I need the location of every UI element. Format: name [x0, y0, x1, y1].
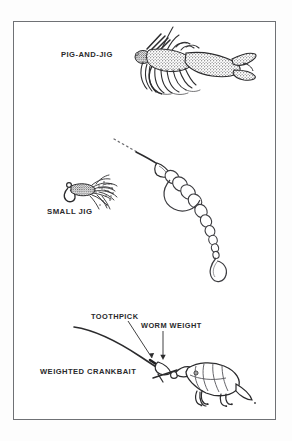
- illustration-page: PIG-AND-JIG SMALL JIG TOOTHPICK WORM WEI…: [0, 0, 292, 441]
- label-worm-weight: WORM WEIGHT: [141, 322, 202, 329]
- label-weighted-crankbait: WEIGHTED CRANKBAIT: [40, 368, 136, 376]
- label-small-jig: SMALL JIG: [47, 208, 93, 216]
- label-pig-and-jig: PIG-AND-JIG: [61, 51, 113, 59]
- label-toothpick: TOOTHPICK: [91, 313, 138, 320]
- illustration-frame: [13, 21, 276, 420]
